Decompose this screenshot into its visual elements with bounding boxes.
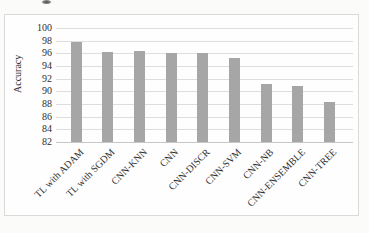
bar-tl-with-adam [71,42,82,142]
y-tick-label: 84 [22,124,52,134]
y-tick-label: 82 [22,137,52,147]
bar-chart: Accuracy 100989694929088868482TL with AD… [4,14,359,216]
bar-cnn [166,53,177,142]
x-axis-line [56,142,353,143]
y-tick-label: 86 [22,112,52,122]
bar-cnn-discr [197,53,208,142]
y-gridline [56,28,353,29]
bar-cnn-tree [324,102,335,142]
y-tick-label: 88 [22,99,52,109]
bar-cnn-knn [134,51,145,142]
y-tick-label: 100 [22,23,52,33]
cropped-text-ink-artifact [42,0,51,4]
y-tick-label: 92 [22,74,52,84]
y-tick-label: 96 [22,48,52,58]
y-tick-label: 90 [22,86,52,96]
scanned-figure-page: { "chart_data": { "type": "bar", "catego… [0,0,369,233]
y-tick-label: 98 [22,36,52,46]
x-category-label: CNN [158,147,180,169]
bar-cnn-nb [261,84,272,142]
bar-tl-with-sgdm [102,52,113,142]
bar-cnn-ensemble [292,86,303,142]
bar-cnn-svm [229,58,240,142]
y-gridline [56,41,353,42]
y-tick-label: 94 [22,61,52,71]
